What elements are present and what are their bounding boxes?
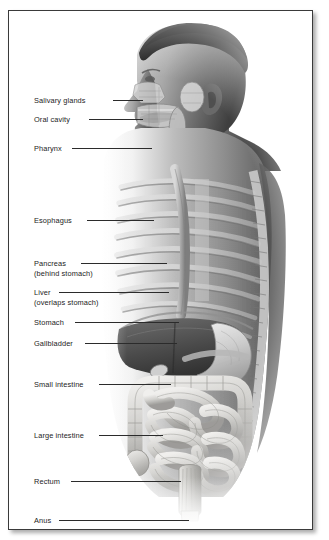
leader-line-salivary-glands [113,100,143,101]
leader-line-rectum [71,481,181,482]
label-salivary-glands-text: Salivary glands [34,96,86,105]
label-gallbladder: Gallbladder [34,339,73,349]
leader-line-gallbladder [85,343,177,344]
label-pancreas-text: Pancreas [34,259,66,268]
label-large-intestine: Large intestine [34,431,84,441]
label-large-intestine-text: Large intestine [34,431,84,440]
label-salivary-glands: Salivary glands [34,96,86,106]
label-stomach-text: Stomach [34,318,64,327]
label-gallbladder-text: Gallbladder [34,339,73,348]
leader-line-liver [59,292,169,293]
label-liver-subtext: (overlaps stomach) [34,298,99,308]
label-liver-text: Liver [34,288,51,297]
leader-line-stomach [75,322,179,323]
leader-line-pancreas [81,263,167,264]
label-esophagus: Esophagus [34,216,72,226]
leader-line-small-intestine [99,384,171,385]
label-stomach: Stomach [34,318,64,328]
label-rectum-text: Rectum [34,477,60,486]
label-pharynx: Pharynx [34,144,62,154]
label-pancreas: Pancreas (behind stomach) [34,259,93,278]
label-pharynx-text: Pharynx [34,144,62,153]
label-small-intestine-text: Small intestine [34,380,84,389]
leader-line-pharynx [72,148,152,149]
label-pancreas-subtext: (behind stomach) [34,269,93,279]
leader-line-esophagus [87,220,154,221]
figure-frame: Salivary glands Oral cavity Pharynx Esop… [8,10,313,530]
label-layer: Salivary glands Oral cavity Pharynx Esop… [9,11,310,527]
figure-plate: Salivary glands Oral cavity Pharynx Esop… [9,11,312,529]
screenshot-root: Salivary glands Oral cavity Pharynx Esop… [0,0,329,540]
label-rectum: Rectum [34,477,60,487]
label-small-intestine: Small intestine [34,380,84,390]
label-liver: Liver (overlaps stomach) [34,288,99,307]
label-anus: Anus [34,516,51,526]
leader-line-oral-cavity [89,119,143,120]
label-esophagus-text: Esophagus [34,216,72,225]
label-oral-cavity: Oral cavity [34,115,70,125]
leader-line-anus [59,520,189,521]
leader-line-large-intestine [99,435,163,436]
label-anus-text: Anus [34,516,51,525]
label-oral-cavity-text: Oral cavity [34,115,70,124]
